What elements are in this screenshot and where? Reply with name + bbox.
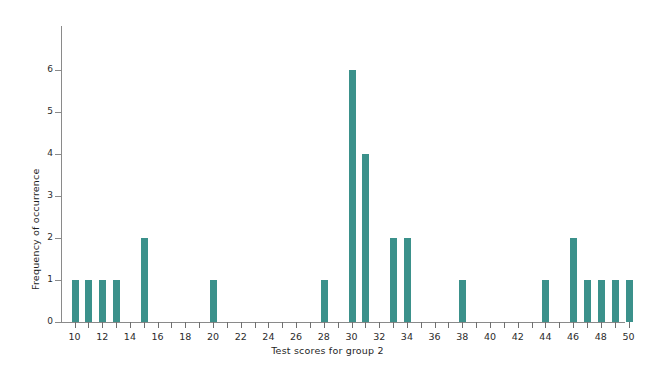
x-tick-49 xyxy=(615,322,616,328)
x-tick-20 xyxy=(213,322,214,328)
x-tick-13 xyxy=(116,322,117,328)
x-tick-label: 26 xyxy=(281,331,311,342)
x-tick-label: 28 xyxy=(309,331,339,342)
bar xyxy=(598,280,605,322)
x-tick-45 xyxy=(559,322,560,328)
bar xyxy=(612,280,619,322)
bar xyxy=(113,280,120,322)
x-tick-label: 42 xyxy=(503,331,533,342)
x-tick-43 xyxy=(532,322,533,328)
x-tick-32 xyxy=(379,322,380,328)
x-tick-label: 12 xyxy=(87,331,117,342)
bar xyxy=(362,154,369,322)
x-tick-17 xyxy=(171,322,172,328)
x-tick-40 xyxy=(490,322,491,328)
x-tick-24 xyxy=(268,322,269,328)
x-tick-44 xyxy=(545,322,546,328)
x-tick-16 xyxy=(158,322,159,328)
bar xyxy=(626,280,633,322)
x-tick-label: 46 xyxy=(558,331,588,342)
x-tick-label: 18 xyxy=(170,331,200,342)
x-tick-label: 44 xyxy=(530,331,560,342)
bar xyxy=(570,238,577,322)
x-tick-label: 48 xyxy=(586,331,616,342)
x-tick-25 xyxy=(282,322,283,328)
bar xyxy=(349,70,356,322)
x-tick-23 xyxy=(255,322,256,328)
x-tick-label: 36 xyxy=(420,331,450,342)
x-tick-label: 38 xyxy=(447,331,477,342)
x-tick-27 xyxy=(310,322,311,328)
x-tick-12 xyxy=(102,322,103,328)
x-tick-11 xyxy=(88,322,89,328)
x-tick-28 xyxy=(324,322,325,328)
y-tick-0 xyxy=(55,322,62,323)
bar xyxy=(404,238,411,322)
x-tick-34 xyxy=(407,322,408,328)
x-tick-46 xyxy=(573,322,574,328)
x-tick-21 xyxy=(227,322,228,328)
x-tick-10 xyxy=(75,322,76,328)
x-tick-label: 50 xyxy=(614,331,644,342)
x-tick-37 xyxy=(448,322,449,328)
x-tick-18 xyxy=(185,322,186,328)
x-tick-14 xyxy=(130,322,131,328)
bar xyxy=(459,280,466,322)
x-tick-38 xyxy=(462,322,463,328)
x-tick-label: 30 xyxy=(337,331,367,342)
x-axis-title: Test scores for group 2 xyxy=(0,345,655,356)
x-tick-29 xyxy=(338,322,339,328)
x-tick-36 xyxy=(435,322,436,328)
bar xyxy=(72,280,79,322)
x-tick-42 xyxy=(518,322,519,328)
y-axis-title: Frequency of occurrence xyxy=(30,168,41,290)
x-tick-label: 20 xyxy=(198,331,228,342)
bar xyxy=(210,280,217,322)
bar xyxy=(584,280,591,322)
bar xyxy=(99,280,106,322)
x-tick-31 xyxy=(365,322,366,328)
bar xyxy=(390,238,397,322)
x-tick-label: 22 xyxy=(226,331,256,342)
bar-series xyxy=(0,0,655,322)
x-tick-26 xyxy=(296,322,297,328)
x-tick-label: 16 xyxy=(143,331,173,342)
x-tick-47 xyxy=(587,322,588,328)
x-tick-label: 10 xyxy=(60,331,90,342)
bar xyxy=(85,280,92,322)
bar xyxy=(542,280,549,322)
x-tick-label: 32 xyxy=(364,331,394,342)
x-tick-19 xyxy=(199,322,200,328)
x-tick-35 xyxy=(421,322,422,328)
x-axis-line xyxy=(61,322,625,323)
x-tick-label: 24 xyxy=(253,331,283,342)
x-tick-22 xyxy=(241,322,242,328)
x-tick-48 xyxy=(601,322,602,328)
x-tick-label: 34 xyxy=(392,331,422,342)
histogram-figure: 0123456 10121416182022242628303234363840… xyxy=(0,0,655,378)
plot-area: 0123456 10121416182022242628303234363840… xyxy=(0,0,655,378)
bar xyxy=(321,280,328,322)
x-tick-33 xyxy=(393,322,394,328)
x-tick-50 xyxy=(629,322,630,328)
bar xyxy=(141,238,148,322)
x-tick-30 xyxy=(352,322,353,328)
x-tick-41 xyxy=(504,322,505,328)
x-tick-15 xyxy=(144,322,145,328)
x-tick-label: 14 xyxy=(115,331,145,342)
x-tick-39 xyxy=(476,322,477,328)
x-tick-label: 40 xyxy=(475,331,505,342)
